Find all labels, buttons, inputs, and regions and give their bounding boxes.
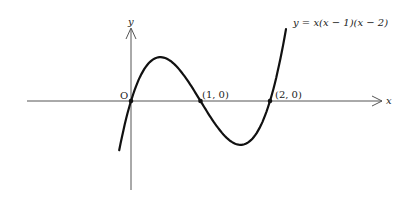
point-2-0 [268,99,273,104]
equation-label: y = x(x − 1)(x − 2) [292,17,388,28]
y-axis-label: y [127,16,134,27]
point-2-0-label: (2, 0) [275,89,302,100]
cubic-function-graph: y x O (1, 0) (2, 0) y = x(x − 1)(x − 2) [0,0,400,201]
x-axis-label: x [386,95,392,106]
graph-canvas: y x O (1, 0) (2, 0) y = x(x − 1)(x − 2) [0,0,400,201]
origin-label: O [120,90,128,101]
origin-point [129,99,134,104]
point-1-0-label: (1, 0) [202,89,229,100]
